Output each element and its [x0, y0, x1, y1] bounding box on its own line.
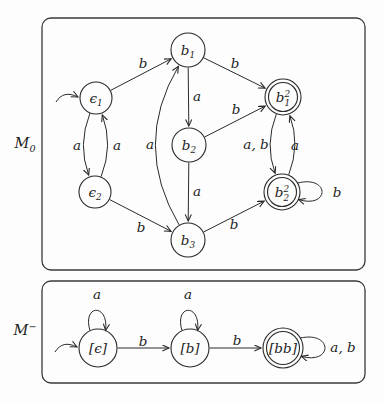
edge-qb-qb-label: a [184, 286, 192, 302]
state-label-qbb: [bb] [269, 340, 298, 356]
edge-b12-b22 [270, 114, 276, 173]
edge-b3-b1-label: a [146, 136, 154, 152]
start-arrow-qe [55, 344, 77, 352]
start-arrow-e1 [56, 94, 78, 102]
edge-b2-b3 [188, 163, 189, 222]
edge-qb-qb [181, 310, 198, 330]
edge-e1-e2-label: a [73, 137, 81, 153]
edge-b12-b22-label: a, b [243, 136, 268, 152]
edge-e2-e1 [101, 115, 108, 177]
state-label-qb: [b] [180, 340, 200, 356]
edge-b3-b22-label: b [230, 216, 239, 232]
edge-qbb-qbb [300, 337, 325, 358]
edge-b2-b12-label: b [232, 101, 241, 117]
state-label-qe: [ϵ] [89, 340, 108, 356]
edge-qe-qb-label: b [139, 333, 148, 349]
edge-e1-e2 [83, 113, 90, 175]
edge-qe-qe [89, 310, 106, 330]
automata-figure: M0baaaaabbbba, babϵ1ϵ2b1b2b3b21b22M−aabb… [0, 0, 384, 403]
edge-b22-b12-label: a [291, 137, 299, 153]
edge-b1-b2 [188, 68, 189, 127]
edge-qb-qbb-label: b [233, 332, 242, 348]
machine-label-Mminus: M− [13, 321, 37, 338]
edge-b1-b2-label: a [193, 88, 201, 104]
edge-qbb-qbb-label: a, b [330, 339, 355, 355]
edge-b1-b12-label: b [231, 55, 240, 71]
edge-e2-e1-label: a [113, 137, 121, 153]
edge-b22-b22 [298, 182, 322, 201]
edge-b22-b22-label: b [333, 184, 342, 200]
edge-e2-b3-label: b [137, 219, 146, 235]
edge-e1-b1-label: b [139, 55, 148, 71]
automata-svg: M0baaaaabbbba, babϵ1ϵ2b1b2b3b21b22M−aabb… [0, 0, 384, 403]
machine-label-M0: M0 [14, 135, 36, 154]
edge-b2-b3-label: a [193, 183, 201, 199]
edge-qe-qe-label: a [93, 286, 101, 302]
